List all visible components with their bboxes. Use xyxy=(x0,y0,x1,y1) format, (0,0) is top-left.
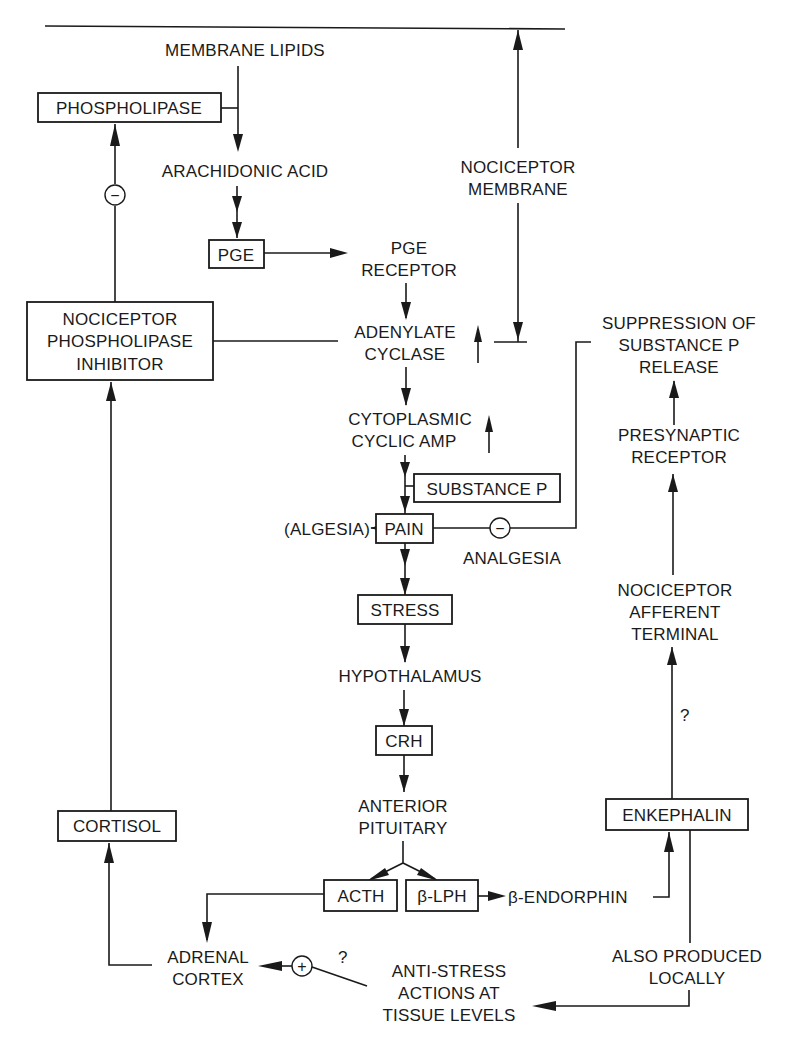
node-pituitary-line1: ANTERIOR xyxy=(358,797,447,816)
node-analgesia: ANALGESIA xyxy=(463,549,562,568)
node-pain: PAIN xyxy=(384,520,423,539)
arrowhead-icon xyxy=(664,832,674,852)
node-camp-line2: CYCLIC AMP xyxy=(352,432,457,451)
arrowhead-icon xyxy=(667,647,677,665)
node-membrane-lipids: MEMBRANE LIPIDS xyxy=(165,41,325,60)
edge-acth-adrenal xyxy=(207,894,324,940)
node-crh: CRH xyxy=(385,732,422,751)
node-afferent-line1: NOCICEPTOR xyxy=(617,581,732,600)
arrowhead-icon xyxy=(401,302,411,320)
up-arrow-icon xyxy=(485,415,493,432)
membrane-line xyxy=(45,26,565,29)
node-inhibitor-line1: NOCICEPTOR xyxy=(62,310,177,329)
node-suppression-line3: RELEASE xyxy=(639,358,719,377)
up-arrow-icon xyxy=(474,325,482,342)
arrowhead-icon xyxy=(399,709,409,726)
node-inhibitor-line3: INHIBITOR xyxy=(76,355,163,374)
arrowhead-icon xyxy=(401,388,411,406)
node-pituitary-line2: PITUITARY xyxy=(358,819,447,838)
node-presynaptic-line1: PRESYNAPTIC xyxy=(618,426,740,445)
arrowhead-icon xyxy=(400,462,410,477)
node-adenylate-line2: CYCLASE xyxy=(365,345,446,364)
edge-local-antistress xyxy=(540,990,689,1006)
node-beta-endorphin: β-ENDORPHIN xyxy=(508,888,628,907)
node-afferent-line2: AFFERENT xyxy=(629,603,720,622)
arrowhead-icon xyxy=(488,891,506,901)
node-also-produced-line2: LOCALLY xyxy=(649,969,726,988)
arrowhead-icon xyxy=(330,248,348,258)
node-nociceptor-membrane-line2: MEMBRANE xyxy=(468,180,568,199)
node-cortisol: CORTISOL xyxy=(73,817,161,836)
node-substance-p: SUBSTANCE P xyxy=(427,480,548,499)
node-suppression-line1: SUPPRESSION OF xyxy=(602,314,756,333)
node-beta-lph: β-LPH xyxy=(417,887,467,906)
node-pge: PGE xyxy=(218,246,255,265)
arrowhead-icon xyxy=(400,646,410,663)
arrowhead-icon xyxy=(400,496,410,512)
edge-antistress-adrenal xyxy=(312,967,367,986)
minus-sign-glyph-2: − xyxy=(495,520,505,537)
arrowhead-icon xyxy=(367,868,389,881)
arrowhead-icon xyxy=(417,868,439,881)
minus-sign-glyph: − xyxy=(110,187,120,204)
arrowhead-icon xyxy=(668,474,678,492)
arrowhead-icon xyxy=(202,922,212,943)
node-phospholipase: PHOSPHOLIPASE xyxy=(56,99,202,118)
node-antistress-line2: ACTIONS AT xyxy=(398,984,500,1003)
node-acth: ACTH xyxy=(337,887,384,906)
plus-sign-glyph: + xyxy=(297,958,307,975)
arrowhead-icon xyxy=(532,1001,556,1011)
pain-stress-pathway-diagram: MEMBRANE LIPIDS PHOSPHOLIPASE ARACHIDONI… xyxy=(0,0,787,1054)
arrowhead-icon xyxy=(258,961,282,971)
node-antistress-line3: TISSUE LEVELS xyxy=(383,1006,516,1025)
arrowhead-icon xyxy=(232,222,242,238)
arrowhead-icon xyxy=(669,380,679,398)
node-suppression-line2: SUBSTANCE P xyxy=(619,336,740,355)
node-adrenal-line2: CORTEX xyxy=(172,970,244,989)
arrowhead-icon xyxy=(106,382,116,401)
arrowhead-icon xyxy=(513,30,523,50)
node-also-produced-line1: ALSO PRODUCED xyxy=(612,947,762,966)
node-nociceptor-membrane-line1: NOCICEPTOR xyxy=(460,158,575,177)
node-adrenal-line1: ADRENAL xyxy=(167,948,249,967)
arrowhead-icon xyxy=(400,578,410,595)
arrowhead-icon xyxy=(399,775,409,792)
node-adenylate-line1: ADENYLATE xyxy=(354,323,456,342)
arrowhead-icon xyxy=(513,322,523,340)
arrowhead-icon xyxy=(400,549,410,566)
node-algesia-label: (ALGESIA) xyxy=(284,520,370,539)
node-camp-line1: CYTOPLASMIC xyxy=(348,410,472,429)
arrowhead-icon xyxy=(233,134,243,152)
node-pge-receptor-line2: RECEPTOR xyxy=(361,261,457,280)
arrowhead-icon xyxy=(110,124,120,146)
arrowhead-icon xyxy=(104,843,114,863)
arrowhead-icon xyxy=(232,196,242,212)
question-mark-antistress: ? xyxy=(338,948,348,967)
question-mark-enkephalin: ? xyxy=(680,706,690,725)
node-arachidonic-acid: ARACHIDONIC ACID xyxy=(162,162,329,181)
node-enkephalin: ENKEPHALIN xyxy=(622,806,732,825)
edge-adrenal-cortisol xyxy=(109,843,152,965)
node-pge-receptor-line1: PGE xyxy=(391,239,428,258)
node-afferent-line3: TERMINAL xyxy=(631,625,719,644)
node-stress: STRESS xyxy=(370,601,439,620)
node-hypothalamus: HYPOTHALAMUS xyxy=(338,667,481,686)
node-inhibitor-line2: PHOSPHOLIPASE xyxy=(47,332,193,351)
node-presynaptic-line2: RECEPTOR xyxy=(631,448,727,467)
node-antistress-line1: ANTI-STRESS xyxy=(392,962,507,981)
